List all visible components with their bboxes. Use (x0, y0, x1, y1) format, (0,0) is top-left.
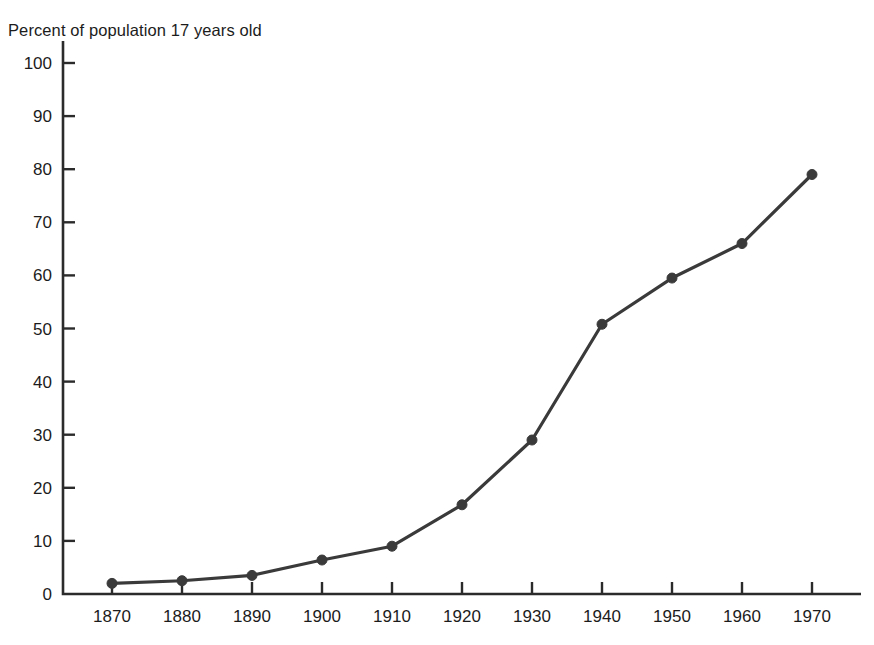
x-axis-tick-label: 1910 (373, 607, 411, 626)
y-axis-tick-label: 0 (43, 585, 52, 604)
data-point-marker (107, 578, 117, 588)
x-axis-tick-label: 1880 (163, 607, 201, 626)
data-line-series (112, 175, 812, 584)
y-axis-tick-label: 100 (24, 54, 52, 73)
x-axis-tick-label: 1950 (653, 607, 691, 626)
x-axis-tick-label: 1900 (303, 607, 341, 626)
y-axis-ticks (63, 63, 75, 541)
x-axis-tick-label: 1890 (233, 607, 271, 626)
axis-lines (63, 41, 861, 594)
x-axis-tick-label: 1870 (93, 607, 131, 626)
x-axis-tick-label: 1970 (793, 607, 831, 626)
y-axis-tick-label: 90 (33, 107, 52, 126)
data-point-marker (527, 435, 537, 445)
x-axis-tick-label: 1930 (513, 607, 551, 626)
data-point-marker (177, 576, 187, 586)
data-point-marker (317, 555, 327, 565)
data-point-marker (807, 170, 817, 180)
x-axis-tick-label: 1960 (723, 607, 761, 626)
chart-plot-area: 1009080706050403020100 18701880189019001… (0, 0, 874, 645)
data-point-marker (457, 500, 467, 510)
y-axis-tick-label: 10 (33, 532, 52, 551)
x-axis-tick-labels: 1870188018901900191019201930194019501960… (93, 607, 831, 626)
data-point-marker (667, 273, 677, 283)
data-point-markers (107, 170, 817, 589)
chart-figure: Percent of population 17 years old 10090… (0, 0, 874, 645)
data-point-marker (387, 541, 397, 551)
y-axis-tick-labels: 1009080706050403020100 (24, 54, 52, 604)
x-axis-tick-label: 1940 (583, 607, 621, 626)
y-axis-tick-label: 40 (33, 373, 52, 392)
data-point-marker (247, 570, 257, 580)
data-point-marker (737, 239, 747, 249)
y-axis-tick-label: 30 (33, 426, 52, 445)
data-point-marker (597, 319, 607, 329)
y-axis-tick-label: 50 (33, 320, 52, 339)
y-axis-tick-label: 60 (33, 266, 52, 285)
y-axis-tick-label: 20 (33, 479, 52, 498)
x-axis-tick-label: 1920 (443, 607, 481, 626)
x-axis-ticks (112, 582, 812, 594)
y-axis-tick-label: 80 (33, 160, 52, 179)
y-axis-tick-label: 70 (33, 213, 52, 232)
series-line (112, 175, 812, 584)
